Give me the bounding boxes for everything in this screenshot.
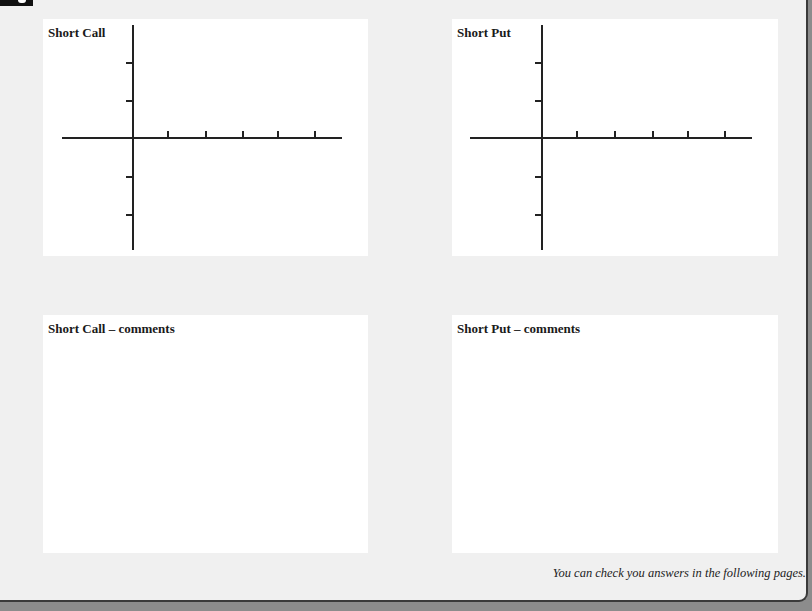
y-tick [535, 100, 541, 102]
short-call-comments-box[interactable]: Short Call – comments [43, 315, 368, 553]
chart-title: Short Put [457, 25, 511, 41]
y-tick [126, 214, 132, 216]
short-call-chart-panel: Short Call [43, 19, 368, 256]
y-tick [535, 214, 541, 216]
section-marker-icon [0, 0, 33, 6]
x-tick [205, 131, 207, 137]
x-tick [724, 131, 726, 137]
x-tick [277, 131, 279, 137]
x-axis [62, 137, 342, 139]
y-tick [535, 176, 541, 178]
footer-note: You can check you answers in the followi… [553, 566, 806, 581]
x-axis [470, 137, 752, 139]
x-tick [167, 131, 169, 137]
x-tick [687, 131, 689, 137]
chart-title: Short Call [48, 25, 105, 41]
x-tick [242, 131, 244, 137]
y-tick [126, 176, 132, 178]
x-tick [314, 131, 316, 137]
y-tick [126, 100, 132, 102]
comments-title: Short Put – comments [457, 321, 580, 337]
y-tick [126, 62, 132, 64]
x-tick [576, 131, 578, 137]
short-put-chart-panel: Short Put [452, 19, 778, 256]
comments-title: Short Call – comments [48, 321, 175, 337]
x-tick [614, 131, 616, 137]
tab-glyph [18, 0, 26, 3]
y-tick [535, 62, 541, 64]
short-put-comments-box[interactable]: Short Put – comments [452, 315, 778, 553]
x-tick [652, 131, 654, 137]
